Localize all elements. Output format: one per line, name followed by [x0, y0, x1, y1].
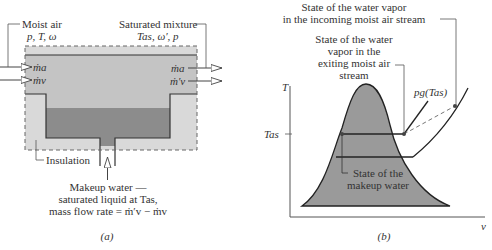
dashed-process-line: [404, 106, 455, 134]
outlet-vapor-flow-label: ṁ′v: [170, 75, 185, 87]
x-axis-label: v: [481, 220, 486, 232]
saturated-mixture-props: Tas, ω′, p: [137, 30, 179, 42]
outlet-air-flow-label: ṁa: [171, 62, 185, 74]
exiting-state-text-2: vapor in the: [328, 45, 381, 57]
panel-b-caption: (b): [378, 230, 391, 243]
incoming-state-text-1: State of the water vapor: [301, 1, 406, 13]
makeup-pipe-water: [100, 138, 115, 146]
inlet-vapor-flow-label: ṁv: [33, 74, 46, 86]
saturated-mixture-label: Saturated mixture: [119, 18, 198, 30]
makeup-water-text-2: saturated liquid at Tas,: [58, 193, 157, 205]
isobar-pg-label: pg(Tas): [413, 86, 448, 99]
water-pool: [46, 108, 170, 138]
exiting-state-leader: [395, 65, 404, 133]
moist-air-label: Moist air: [22, 18, 62, 30]
panel-a-caption: (a): [101, 230, 114, 243]
makeup-water-text-1: Makeup water —: [70, 181, 148, 193]
insulation-label: Insulation: [46, 154, 90, 166]
tas-tick-label: Tas: [264, 128, 279, 140]
exiting-state-text-1: State of the water: [315, 33, 393, 45]
y-axis-label: T: [282, 81, 289, 93]
makeup-state-text-2: makeup water: [347, 179, 409, 191]
moist-air-leader: [8, 24, 20, 67]
inlet-air-flow-label: ṁa: [33, 61, 47, 73]
makeup-state-text-1: State of the: [353, 167, 403, 179]
exiting-state-text-4: stream: [339, 69, 369, 81]
incoming-state-text-2: in the incoming moist air stream: [283, 13, 426, 25]
adiabatic-saturation-diagram: ṁa ṁv ṁa ṁ′v Moist air p, T, ω Saturated…: [0, 0, 492, 250]
isobar-incoming: [413, 88, 468, 157]
exiting-state-text-3: exiting moist air: [318, 57, 390, 69]
isobar-pg-tas: [404, 101, 428, 134]
moist-air-props: p, T, ω: [26, 30, 57, 42]
makeup-water-text-3: mass flow rate = ṁ′v − ṁv: [49, 205, 168, 217]
